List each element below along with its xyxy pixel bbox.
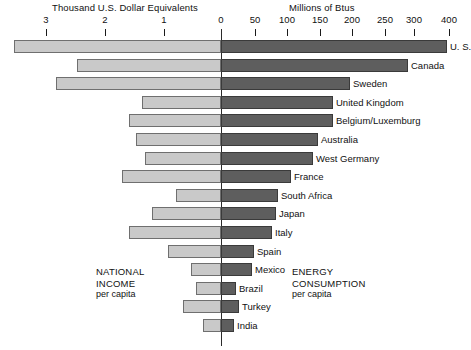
category-label: Mexico [255,263,285,276]
left-annotation: NATIONAL INCOME per capita [96,266,144,301]
bar-energy-consumption[interactable] [221,96,333,109]
bar-energy-consumption[interactable] [221,207,276,220]
category-label: France [294,170,324,183]
right-tick-mark-400 [449,29,450,36]
left-tick-label-1: 1 [161,14,166,25]
category-label: Japan [279,207,305,220]
bar-row[interactable]: France [0,168,471,186]
bar-national-income[interactable] [129,114,221,127]
bar-row[interactable]: Turkey [0,298,471,316]
bar-row[interactable]: West Germany [0,150,471,168]
left-annotation-line2: INCOME [96,278,144,290]
bar-national-income[interactable] [145,152,221,165]
bar-national-income[interactable] [136,133,221,146]
bar-row[interactable]: Spain [0,243,471,261]
bar-energy-consumption[interactable] [221,170,291,183]
bar-national-income[interactable] [152,207,221,220]
bar-national-income[interactable] [191,263,221,276]
right-annotation-line1: ENERGY [292,266,365,278]
category-label: Australia [321,133,358,146]
bar-row[interactable]: Brazil [0,280,471,298]
bar-row[interactable]: Sweden [0,75,471,93]
right-tick-label-300: 300 [406,14,422,25]
bar-energy-consumption[interactable] [221,226,272,239]
bar-energy-consumption[interactable] [221,245,254,258]
bar-row[interactable]: Canada [0,57,471,75]
bar-row[interactable]: Belgium/Luxemburg [0,112,471,130]
right-tick-mark-200 [352,29,353,36]
bar-energy-consumption[interactable] [221,189,278,202]
right-tick-mark-300 [414,29,415,36]
bar-row[interactable]: Japan [0,205,471,223]
category-label: Brazil [239,282,263,295]
left-tick-mark-3 [46,29,47,36]
chart-root: Thousand U.S. Dollar Equivalents Million… [0,0,471,350]
left-annotation-line1: NATIONAL [96,266,144,278]
bar-national-income[interactable] [129,226,221,239]
bar-row[interactable]: U. S. [0,38,471,56]
category-label: India [237,319,258,332]
right-tick-label-250: 250 [377,14,393,25]
bar-row[interactable]: Italy [0,224,471,242]
bar-national-income[interactable] [122,170,221,183]
bar-energy-consumption[interactable] [221,152,313,165]
bar-energy-consumption[interactable] [221,40,447,53]
left-annotation-line3: per capita [96,289,144,301]
category-label: Canada [411,59,444,72]
left-tick-label-3: 3 [43,14,48,25]
bar-row[interactable]: India [0,317,471,335]
left-tick-mark-1 [164,29,165,36]
category-label: Spain [257,245,281,258]
bar-row[interactable]: Australia [0,131,471,149]
category-label: Turkey [242,300,271,313]
bar-energy-consumption[interactable] [221,300,239,313]
bar-energy-consumption[interactable] [221,133,318,146]
right-tick-label-150: 150 [312,14,328,25]
bar-national-income[interactable] [196,282,221,295]
right-tick-label-100: 100 [279,14,295,25]
right-annotation: ENERGY CONSUMPTION per capita [292,266,365,301]
right-tick-label-50: 50 [250,14,261,25]
right-tick-mark-50 [255,29,256,36]
bar-energy-consumption[interactable] [221,114,333,127]
bar-national-income[interactable] [203,319,221,332]
bar-national-income[interactable] [77,59,221,72]
bar-national-income[interactable] [56,77,221,90]
left-axis-title: Thousand U.S. Dollar Equivalents [52,2,198,13]
bar-row[interactable]: United Kingdom [0,94,471,112]
bar-national-income[interactable] [14,40,221,53]
right-annotation-line3: per capita [292,289,365,301]
right-tick-label-400: 400 [441,14,457,25]
bar-row[interactable]: Mexico [0,261,471,279]
right-tick-mark-250 [385,29,386,36]
bar-energy-consumption[interactable] [221,263,252,276]
bar-national-income[interactable] [168,245,221,258]
right-tick-mark-150 [320,29,321,36]
left-tick-label-2: 2 [102,14,107,25]
category-label: U. S. [450,40,471,53]
category-label: Italy [275,226,292,239]
bar-national-income[interactable] [142,96,221,109]
category-label: United Kingdom [336,96,404,109]
bar-energy-consumption[interactable] [221,282,236,295]
left-tick-mark-2 [105,29,106,36]
right-annotation-line2: CONSUMPTION [292,278,365,290]
right-tick-mark-100 [287,29,288,36]
category-label: South Africa [281,189,332,202]
right-axis-title: Millions of Btus [289,2,354,13]
right-tick-label-200: 200 [344,14,360,25]
right-tick-label-0: 0 [218,14,223,25]
category-label: West Germany [316,152,379,165]
category-label: Sweden [353,77,387,90]
bar-energy-consumption[interactable] [221,59,408,72]
bar-energy-consumption[interactable] [221,319,234,332]
bar-energy-consumption[interactable] [221,77,350,90]
category-label: Belgium/Luxemburg [336,114,421,127]
bar-national-income[interactable] [176,189,221,202]
bar-national-income[interactable] [183,300,221,313]
bar-row[interactable]: South Africa [0,187,471,205]
